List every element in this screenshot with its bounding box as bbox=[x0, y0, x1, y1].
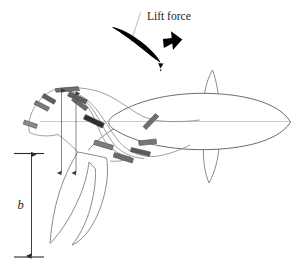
lift-force-label: Lift force bbox=[147, 10, 191, 22]
span-symbol-label: b bbox=[18, 198, 24, 212]
vortex-marker-1 bbox=[55, 87, 80, 93]
wake-curve-lower-return bbox=[58, 135, 78, 153]
fish-lift-wake-diagram: Lift force bbox=[0, 0, 303, 271]
ventral-fin-outline bbox=[203, 146, 219, 184]
span-dimension-group: b bbox=[14, 154, 44, 258]
foil-tip-marker bbox=[158, 63, 163, 68]
vortex-marker-12 bbox=[42, 94, 56, 105]
vortex-marker-2 bbox=[34, 101, 50, 112]
hydrofoil-section bbox=[112, 27, 161, 63]
wake-height-arrows bbox=[62, 91, 77, 174]
vortex-marker-3 bbox=[23, 120, 37, 129]
wake-curve-outer-bottom bbox=[30, 133, 59, 136]
figure-canvas: Lift force bbox=[0, 0, 303, 271]
caudal-fin-outline bbox=[50, 152, 108, 245]
lift-force-group: Lift force bbox=[112, 10, 191, 72]
foil-tip-stem-icon bbox=[160, 69, 162, 71]
vortex-marker-6 bbox=[94, 140, 114, 150]
lift-force-arrow bbox=[162, 30, 183, 51]
